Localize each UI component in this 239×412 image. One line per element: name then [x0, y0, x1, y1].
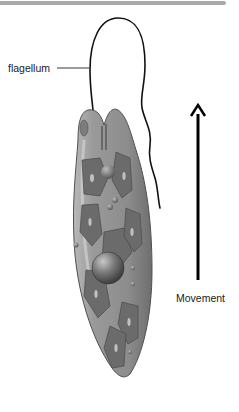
movement-label: Movement: [176, 292, 225, 304]
eyespot: [80, 120, 88, 136]
contractile-vacuole: [101, 165, 115, 179]
flagellum-label: flagellum: [8, 62, 50, 74]
nucleus: [92, 252, 124, 284]
